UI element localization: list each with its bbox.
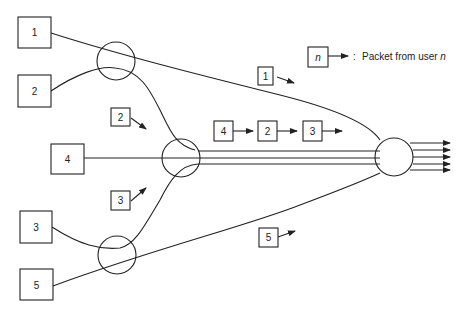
svg-text:1: 1 <box>263 71 269 82</box>
output-lines <box>410 143 450 170</box>
user-box-5: 5 <box>20 269 53 300</box>
user-box-1: 1 <box>18 17 51 48</box>
user-label-1: 1 <box>32 27 38 38</box>
network-diagram: 1 2 4 3 5 1 2 3 4 2 3 <box>0 0 473 319</box>
user-label-2: 2 <box>32 86 38 97</box>
svg-text:2: 2 <box>265 126 271 137</box>
legend-symbol: n <box>315 52 321 63</box>
user-label-4: 4 <box>65 154 71 165</box>
multiplexer-output <box>375 138 413 176</box>
link-user5 <box>53 173 380 286</box>
packet-arrow-3 <box>131 188 146 201</box>
multiplexer-bottom <box>98 236 136 274</box>
packet-4-trunk: 4 <box>214 121 253 141</box>
packet-1: 1 <box>258 67 294 85</box>
packet-5: 5 <box>259 228 295 247</box>
legend-text: Packet from user n <box>362 51 446 62</box>
svg-text:3: 3 <box>310 126 316 137</box>
packet-arrow-1 <box>277 77 294 83</box>
packet-arrow-7 <box>278 231 295 237</box>
user-box-2: 2 <box>18 75 51 107</box>
user-label-3: 3 <box>33 222 39 233</box>
multiplexer-top <box>97 42 135 80</box>
user-box-4: 4 <box>51 144 84 174</box>
legend: n : Packet from user n <box>308 47 446 67</box>
packet-3-branch: 3 <box>111 188 146 210</box>
svg-text:5: 5 <box>266 232 272 243</box>
svg-text:3: 3 <box>118 195 124 206</box>
packet-2-trunk: 2 <box>258 121 297 141</box>
packet-2-branch: 2 <box>111 108 146 129</box>
svg-text:4: 4 <box>221 126 227 137</box>
user-label-5: 5 <box>34 280 40 291</box>
svg-text:2: 2 <box>118 112 124 123</box>
legend-separator: : <box>353 51 356 62</box>
packet-3-trunk: 3 <box>303 121 342 141</box>
packet-arrow-2 <box>131 118 146 129</box>
user-box-3: 3 <box>20 211 52 243</box>
